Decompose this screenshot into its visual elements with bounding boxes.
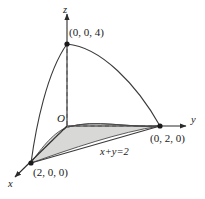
curve-apex-to-y: [67, 44, 160, 126]
label-point-2-0-0: (2, 0, 0): [33, 167, 68, 178]
label-plane-equation: x+y=2: [100, 147, 129, 158]
label-axis-z: z: [63, 5, 67, 16]
point-marker-x: [28, 160, 33, 165]
label-point-0-2-0: (0, 2, 0): [150, 133, 185, 144]
figure-container: (0, 0, 4) (0, 2, 0) (2, 0, 0) z y x O x+…: [0, 0, 205, 199]
point-marker-z: [64, 41, 69, 46]
label-origin: O: [57, 113, 65, 124]
point-marker-y: [157, 123, 162, 128]
label-axis-y: y: [191, 115, 196, 126]
label-point-0-0-4: (0, 0, 4): [69, 27, 104, 38]
label-axis-x: x: [8, 179, 13, 190]
